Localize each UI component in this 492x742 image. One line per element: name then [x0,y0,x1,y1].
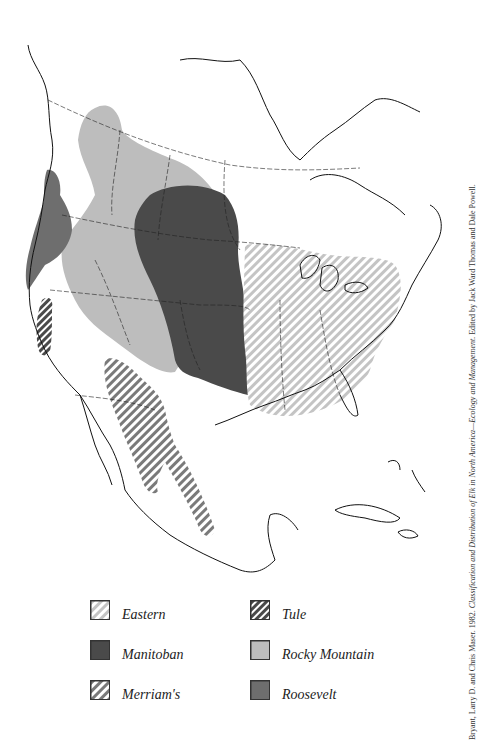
manitoban-swatch-icon [90,640,110,660]
citation-authors: Bryant, Larry D. and Chris Maser. 1982. [468,608,477,740]
legend-item-rocky-mountain: Rocky Mountain [250,637,374,663]
citation: Bryant, Larry D. and Chris Maser. 1982. … [468,184,477,740]
legend-item-merriams: Merriam's [90,677,180,703]
legend-label-eastern: Eastern [122,607,166,623]
citation-title: Classification and Distribution of Elk i… [468,337,477,608]
legend-label-merriams: Merriam's [122,687,180,703]
roosevelt-swatch-icon [250,680,270,700]
elk-range-map [0,0,460,590]
legend-label-manitoban: Manitoban [122,647,183,663]
legend-item-tule: Tule [250,597,306,623]
eastern-swatch-icon [90,600,110,620]
legend-item-eastern: Eastern [90,597,166,623]
rocky-mountain-swatch-icon [250,640,270,660]
legend-item-roosevelt: Roosevelt [250,677,336,703]
legend-item-manitoban: Manitoban [90,637,183,663]
legend-label-rocky-mountain: Rocky Mountain [282,647,374,663]
range-tule [37,298,53,356]
range-merriams [104,358,215,536]
merriams-swatch-icon [90,680,110,700]
legend-label-tule: Tule [282,607,306,623]
tule-swatch-icon [250,600,270,620]
legend-label-roosevelt: Roosevelt [282,687,336,703]
citation-editors: Edited by Jack Ward Thomas and Dale Powe… [468,184,477,337]
